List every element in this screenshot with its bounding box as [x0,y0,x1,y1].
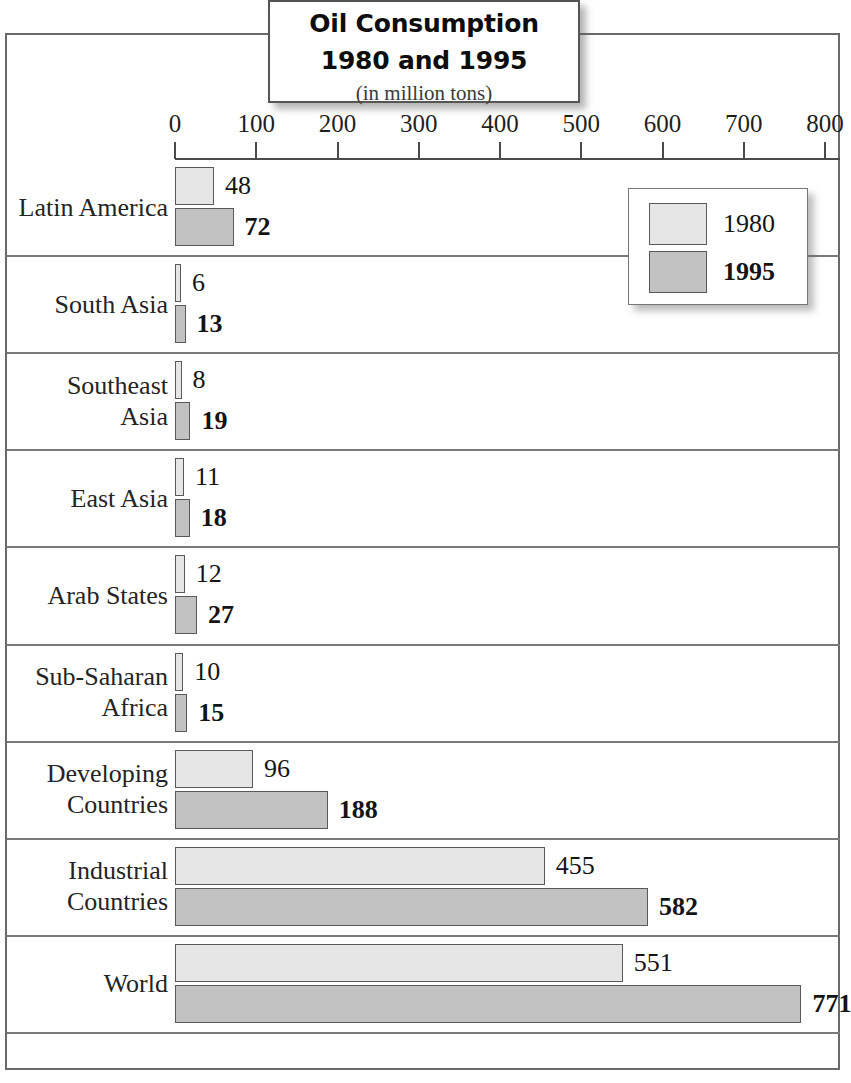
category-label: World [0,968,168,999]
row-separator [7,741,840,743]
legend-item-1995: 1995 [649,251,775,293]
bar-1995 [175,694,187,732]
bar-1995 [175,499,190,537]
bar-value-label-1995: 27 [208,601,234,629]
chart-title-card: Oil Consumption 1980 and 1995 (in millio… [268,0,580,103]
row-separator [7,352,840,354]
bar-1980 [175,847,545,885]
bar-1995 [175,596,197,634]
category-label: Sub-Saharan Africa [0,661,168,723]
bar-1980 [175,264,181,302]
x-axis-line [175,158,840,160]
x-tick-mark-400 [499,142,501,159]
bar-value-label-1980: 6 [192,269,205,297]
bar-value-label-1995: 13 [197,310,223,338]
x-tick-mark-700 [743,142,745,159]
bar-1995 [175,402,190,440]
legend-item-1980: 1980 [649,203,775,245]
x-tick-mark-100 [255,142,257,159]
title-subtitle: (in million tons) [270,80,578,106]
x-tick-label-300: 300 [400,110,438,138]
chart-legend: 1980 1995 [628,188,808,305]
x-tick-mark-600 [662,142,664,159]
title-line-2: 1980 and 1995 [270,46,578,76]
category-label: Industrial Countries [0,855,168,917]
x-tick-mark-0 [174,142,176,159]
bar-value-label-1980: 48 [225,172,251,200]
x-tick-label-100: 100 [238,110,276,138]
row-separator [7,644,840,646]
bar-value-label-1995: 15 [198,699,224,727]
bar-value-label-1980: 10 [194,658,220,686]
bar-value-label-1980: 551 [634,949,673,977]
legend-swatch-1995 [649,251,707,293]
bar-value-label-1995: 771 [812,990,851,1018]
x-tick-label-600: 600 [644,110,682,138]
category-label: East Asia [0,482,168,513]
bar-value-label-1995: 72 [245,213,271,241]
x-tick-mark-200 [337,142,339,159]
bar-1980 [175,555,185,593]
row-separator [7,935,840,937]
row-separator [7,546,840,548]
bar-1995 [175,305,186,343]
legend-label-1980: 1980 [723,210,775,238]
bar-value-label-1995: 582 [659,893,698,921]
bar-1980 [175,167,214,205]
bar-1980 [175,361,182,399]
bar-1995 [175,888,648,926]
x-tick-label-700: 700 [725,110,763,138]
bar-value-label-1995: 18 [201,504,227,532]
bar-value-label-1980: 12 [196,560,222,588]
x-tick-mark-800 [824,142,826,159]
row-separator [7,1032,840,1034]
row-separator [7,838,840,840]
category-label: Arab States [0,579,168,610]
x-tick-label-0: 0 [169,110,182,138]
legend-swatch-1980 [649,203,707,245]
legend-label-1995: 1995 [723,258,775,286]
title-line-1: Oil Consumption [270,9,578,39]
x-tick-label-400: 400 [481,110,519,138]
row-separator [7,449,840,451]
x-tick-label-200: 200 [319,110,357,138]
category-label: Latin America [0,191,168,222]
bar-value-label-1995: 19 [201,407,227,435]
category-label: South Asia [0,288,168,319]
bar-value-label-1980: 8 [193,366,206,394]
x-tick-mark-300 [418,142,420,159]
bar-1980 [175,653,183,691]
x-tick-label-800: 800 [806,110,844,138]
bar-1980 [175,944,623,982]
bar-value-label-1980: 455 [556,852,595,880]
bar-1995 [175,791,328,829]
bar-1995 [175,985,801,1023]
bar-value-label-1980: 11 [195,463,220,491]
bar-1995 [175,208,234,246]
category-label: Southeast Asia [0,370,168,432]
bar-value-label-1980: 96 [264,755,290,783]
x-tick-mark-500 [580,142,582,159]
category-label: Developing Countries [0,758,168,820]
bar-1980 [175,750,253,788]
bar-1980 [175,458,184,496]
x-tick-label-500: 500 [563,110,601,138]
bar-value-label-1995: 188 [339,796,378,824]
